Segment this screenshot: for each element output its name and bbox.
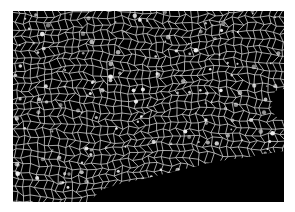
net-knot bbox=[274, 16, 276, 18]
net-knot bbox=[205, 22, 207, 24]
net-knot bbox=[180, 75, 182, 77]
net-knot bbox=[150, 175, 153, 178]
net-knot bbox=[51, 130, 53, 132]
net-knot bbox=[58, 103, 62, 107]
net-knot bbox=[270, 131, 275, 136]
net-knot bbox=[170, 196, 173, 199]
net-knot bbox=[252, 13, 254, 15]
net-knot bbox=[198, 141, 200, 143]
net-knot bbox=[230, 129, 232, 131]
net-knot bbox=[175, 168, 180, 173]
net-knot bbox=[206, 141, 210, 145]
net-knot bbox=[199, 30, 203, 34]
net-knot bbox=[276, 51, 280, 55]
net-knot bbox=[154, 55, 157, 58]
net-knot bbox=[259, 129, 264, 134]
net-knot bbox=[89, 40, 94, 45]
net-knot bbox=[253, 171, 255, 173]
net-knot bbox=[86, 16, 90, 20]
net-knot bbox=[211, 101, 213, 103]
net-knot bbox=[70, 14, 72, 16]
net-knot bbox=[136, 191, 138, 193]
net-knot bbox=[44, 84, 48, 88]
net-knot bbox=[188, 43, 190, 45]
net-knot bbox=[90, 148, 93, 151]
net-knot bbox=[134, 100, 138, 104]
net-knot bbox=[99, 198, 101, 200]
net-knot bbox=[115, 127, 117, 129]
net-knot bbox=[176, 92, 179, 95]
net-knot bbox=[212, 24, 214, 26]
net-knot bbox=[81, 31, 86, 36]
net-knot bbox=[89, 153, 92, 156]
net-knot bbox=[270, 62, 272, 64]
net-knot bbox=[249, 118, 253, 122]
net-knot bbox=[19, 64, 23, 68]
net-knot bbox=[109, 62, 114, 67]
net-knot bbox=[63, 172, 66, 175]
net-knot bbox=[34, 13, 37, 16]
net-knot bbox=[224, 107, 227, 110]
net-knot bbox=[241, 139, 243, 141]
net-knot bbox=[147, 105, 149, 107]
net-knot bbox=[209, 68, 212, 71]
lace-net-photo bbox=[13, 11, 284, 202]
net-knot bbox=[138, 18, 142, 22]
net-knot bbox=[205, 102, 207, 104]
net-knot bbox=[227, 62, 229, 64]
net-knot bbox=[205, 91, 209, 95]
net-knot bbox=[37, 51, 40, 54]
net-knot bbox=[238, 91, 243, 96]
net-knot bbox=[125, 146, 127, 148]
net-mesh bbox=[13, 11, 284, 202]
net-knot bbox=[67, 186, 70, 189]
net-knot bbox=[51, 149, 53, 151]
net-knot bbox=[91, 82, 93, 84]
net-knot bbox=[251, 11, 255, 13]
net-knot bbox=[140, 115, 143, 118]
net-knot bbox=[117, 170, 120, 173]
net-knot bbox=[236, 63, 238, 65]
net-knot bbox=[81, 112, 83, 114]
net-knot bbox=[81, 162, 83, 164]
net-knot bbox=[252, 84, 256, 88]
net-knot bbox=[229, 196, 233, 200]
net-knot bbox=[24, 18, 26, 20]
net-knot bbox=[67, 172, 70, 175]
net-knot bbox=[166, 35, 171, 40]
net-knot bbox=[82, 52, 85, 55]
net-knot bbox=[63, 86, 66, 89]
net-knot bbox=[36, 110, 40, 114]
net-knot bbox=[116, 50, 121, 55]
net-knot bbox=[41, 157, 45, 161]
net-knot bbox=[183, 129, 187, 133]
net-knot bbox=[169, 21, 171, 23]
net-knot bbox=[215, 141, 219, 145]
net-knot bbox=[59, 181, 63, 185]
net-knot bbox=[133, 198, 137, 202]
net-knot bbox=[57, 156, 61, 160]
net-knot bbox=[231, 31, 233, 33]
net-knot bbox=[255, 170, 258, 173]
net-knot bbox=[219, 89, 223, 93]
net-grid bbox=[13, 11, 284, 202]
net-knot bbox=[266, 85, 268, 87]
net-knot bbox=[80, 170, 84, 174]
net-knot bbox=[237, 31, 239, 33]
net-knot bbox=[188, 91, 191, 94]
net-knot bbox=[141, 177, 143, 179]
net-knot bbox=[160, 169, 163, 172]
net-knot bbox=[266, 148, 268, 150]
net-knot bbox=[42, 47, 46, 51]
net-knot bbox=[257, 174, 261, 178]
net-knot bbox=[37, 98, 41, 102]
net-knot bbox=[108, 74, 113, 79]
net-knot bbox=[118, 72, 121, 75]
net-knot bbox=[46, 23, 51, 28]
net-knot bbox=[15, 171, 20, 176]
net-knot bbox=[252, 65, 257, 70]
net-knot bbox=[40, 32, 45, 37]
net-knot bbox=[156, 72, 161, 77]
net-knot bbox=[14, 74, 17, 77]
net-knot bbox=[45, 100, 48, 103]
